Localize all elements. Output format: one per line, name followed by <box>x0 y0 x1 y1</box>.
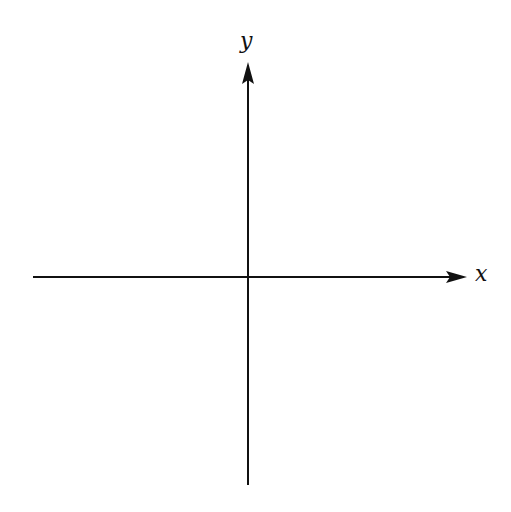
axes-graphic <box>0 0 511 512</box>
y-axis-label: y <box>240 30 252 52</box>
x-axis-label: x <box>475 263 487 285</box>
coordinate-plane: y x <box>0 0 511 512</box>
